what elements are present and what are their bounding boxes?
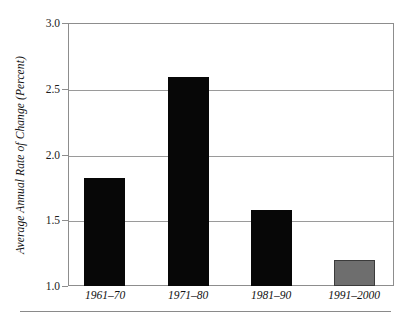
footer-rule [20,311,391,312]
bar-series [68,23,394,286]
y-tick-label-3-0: 3.0 [20,17,60,29]
x-tick-label-1961-70: 1961–70 [57,289,153,301]
y-tick-label-1-0: 1.0 [20,280,60,292]
y-tick-label-2-0: 2.0 [20,149,60,161]
bar-1981-90 [251,210,292,286]
x-tick-label-1981-90: 1981–90 [223,289,319,301]
x-axis-labels: 1961–70 1971–80 1981–90 1991–2000 [68,289,394,307]
y-tick-mark-1-0 [62,286,68,287]
y-tick-label-1-5: 1.5 [20,214,60,226]
bar-chart-figure: Average Annual Rate of Change (Percent) … [0,0,412,326]
y-tick-label-2-5: 2.5 [20,83,60,95]
x-tick-label-1971-80: 1971–80 [140,289,236,301]
x-tick-label-1991-2000: 1991–2000 [306,289,402,301]
bar-1961-70 [84,178,125,286]
bar-1991-2000 [334,260,375,286]
bar-1971-80 [168,77,209,286]
